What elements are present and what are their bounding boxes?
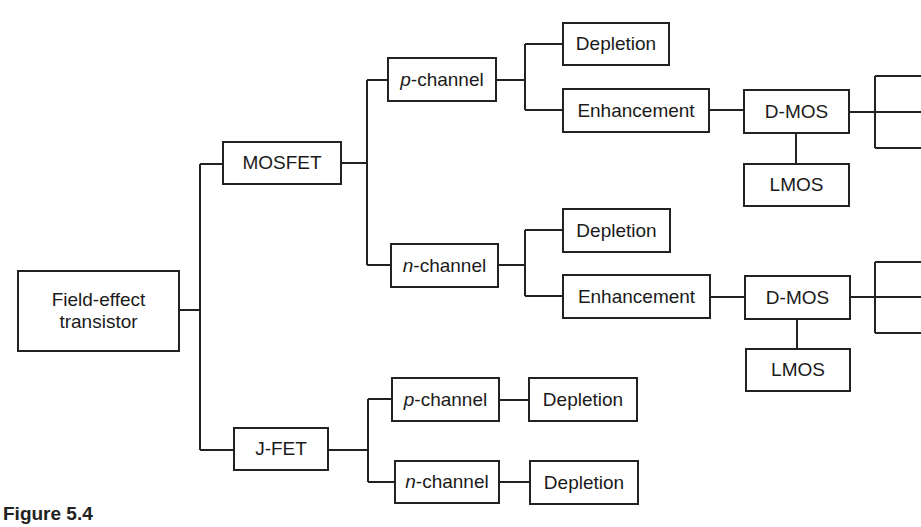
figure-caption: Figure 5.4: [3, 503, 93, 525]
node-mosfet: MOSFET: [222, 141, 342, 185]
node-label: -channel: [416, 471, 489, 493]
node-label: LMOS: [770, 174, 824, 196]
node-label: D-MOS: [766, 287, 829, 309]
node-label: Enhancement: [577, 100, 694, 122]
node-mosfet-p-dmos: D-MOS: [743, 89, 850, 134]
node-label: Enhancement: [578, 286, 695, 308]
node-label: LMOS: [771, 359, 825, 381]
node-label: Depletion: [544, 472, 624, 494]
node-mosfet-n-lmos: LMOS: [745, 348, 851, 392]
node-label: D-MOS: [765, 101, 828, 123]
node-label: Field-effect: [52, 289, 146, 311]
node-mosfet-p-depletion: Depletion: [562, 22, 670, 66]
node-jfet-p-channel: p-channel: [391, 377, 500, 422]
node-mosfet-p-lmos: LMOS: [743, 163, 850, 207]
node-label: transistor: [59, 311, 137, 333]
node-label-prefix: n: [403, 255, 414, 277]
node-mosfet-n-enhancement: Enhancement: [562, 274, 711, 319]
node-label: MOSFET: [242, 152, 321, 174]
node-mosfet-p-channel: p-channel: [387, 57, 497, 102]
node-label: J-FET: [255, 438, 307, 460]
node-mosfet-n-dmos: D-MOS: [744, 275, 851, 320]
node-label: -channel: [414, 389, 487, 411]
node-label-prefix: n: [405, 471, 416, 493]
node-label-prefix: p: [400, 69, 411, 91]
node-jfet-p-depletion: Depletion: [528, 377, 638, 422]
node-jfet-n-depletion: Depletion: [529, 460, 639, 505]
node-mosfet-p-enhancement: Enhancement: [562, 88, 710, 133]
node-jfet: J-FET: [233, 427, 329, 471]
node-label: Depletion: [543, 389, 623, 411]
node-jfet-n-channel: n-channel: [394, 460, 500, 504]
node-label: -channel: [411, 69, 484, 91]
node-mosfet-n-channel: n-channel: [390, 243, 499, 288]
node-label: Depletion: [576, 220, 656, 242]
node-label: -channel: [413, 255, 486, 277]
node-mosfet-n-depletion: Depletion: [562, 208, 671, 253]
node-label-prefix: p: [404, 389, 415, 411]
node-label: Depletion: [576, 33, 656, 55]
node-field-effect-transistor: Field-effect transistor: [17, 270, 180, 352]
